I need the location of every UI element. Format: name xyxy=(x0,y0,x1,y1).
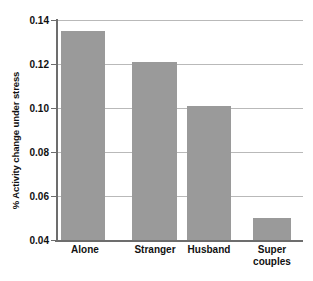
bar-alone xyxy=(61,31,105,240)
x-axis-tick-labels: Alone Stranger Husband Super couples xyxy=(57,244,303,281)
y-tick-label: 0.14 xyxy=(1,15,49,26)
bar-husband xyxy=(187,106,231,240)
x-tick-label-line-1: Super xyxy=(242,244,302,256)
bars-layer xyxy=(57,20,303,240)
bar-chart-figure: % Activity change under stress 0.04 0.06… xyxy=(0,0,313,281)
x-tick-label-line-2: couples xyxy=(242,256,302,268)
x-tick-label-alone: Alone xyxy=(57,244,113,256)
x-tick-label-super-couples: Super couples xyxy=(242,244,302,268)
y-axis-line xyxy=(56,19,58,242)
y-tick-label: 0.06 xyxy=(1,191,49,202)
y-tick-label: 0.08 xyxy=(1,147,49,158)
plot-area xyxy=(57,20,303,240)
y-tick-label: 0.12 xyxy=(1,59,49,70)
x-axis-line xyxy=(55,240,303,242)
y-axis-tick-labels: 0.04 0.06 0.08 0.10 0.12 0.14 xyxy=(0,0,49,281)
y-tick-label: 0.10 xyxy=(1,103,49,114)
x-tick-label-stranger: Stranger xyxy=(123,244,187,256)
bar-super-couples xyxy=(253,218,291,240)
bar-stranger xyxy=(132,62,177,240)
y-tick-label: 0.04 xyxy=(1,235,49,246)
x-tick-label-husband: Husband xyxy=(179,244,239,256)
